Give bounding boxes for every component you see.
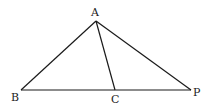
geometry-diagram: A B C P	[0, 0, 209, 108]
label-b: B	[11, 91, 19, 104]
label-p: P	[193, 86, 201, 99]
label-a: A	[90, 6, 100, 19]
segment-ac	[96, 21, 115, 90]
label-c: C	[111, 93, 119, 106]
segment-ap	[96, 21, 191, 90]
segment-ab	[21, 21, 96, 90]
